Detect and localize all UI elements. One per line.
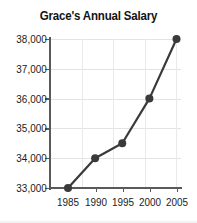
data-series-layer xyxy=(0,0,197,223)
series-line xyxy=(68,39,177,188)
image-bottom-edge xyxy=(0,221,197,223)
data-point-1995 xyxy=(118,139,126,147)
data-point-1990 xyxy=(91,154,99,162)
data-point-2005 xyxy=(173,35,181,43)
data-point-1985 xyxy=(64,184,72,192)
line-chart: Grace's Annual Salary 38,000 37,000 36,0… xyxy=(0,0,197,223)
data-point-2000 xyxy=(145,95,153,103)
series-markers xyxy=(64,35,181,192)
